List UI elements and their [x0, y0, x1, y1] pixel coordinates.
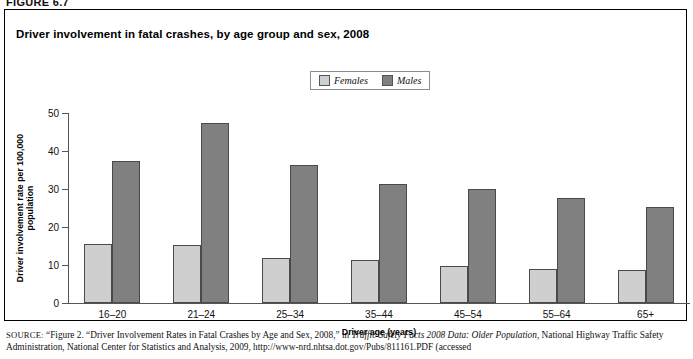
x-tick-label: 45–54 — [454, 309, 482, 320]
bar-males-35-44 — [379, 184, 407, 303]
bar-females-21-24 — [173, 245, 201, 303]
source-keyword: SOURCE: — [6, 330, 44, 340]
source-publication-title: Traffic Safety Facts 2008 Data: Older Po… — [351, 330, 536, 340]
legend-label-males: Males — [397, 75, 421, 86]
y-tick-label: 0 — [53, 298, 59, 309]
bar-males-16-20 — [112, 161, 140, 303]
chart-legend: Females Males — [310, 71, 430, 90]
legend-label-females: Females — [334, 75, 368, 86]
figure-label: FIGURE 6.7 — [6, 0, 69, 6]
bar-group — [512, 113, 601, 303]
plot-area: 01020304050 16–2021–2425–3435–4445–5455–… — [68, 113, 690, 303]
bar-females-45-54 — [440, 266, 468, 303]
chart-title: Driver involvement in fatal crashes, by … — [16, 28, 369, 40]
bar-males-25-34 — [290, 165, 318, 303]
bar-males-45-54 — [468, 189, 496, 303]
legend-item-females: Females — [319, 75, 368, 86]
bar-females-35-44 — [351, 260, 379, 303]
x-tick-label: 16–20 — [99, 309, 127, 320]
x-axis-line — [68, 303, 690, 304]
source-text-a: “Figure 2. “Driver Involvement Rates in … — [44, 330, 352, 340]
bar-females-55-64 — [529, 269, 557, 303]
x-tick-label: 55–64 — [543, 309, 571, 320]
legend-item-males: Males — [382, 75, 421, 86]
bar-group — [68, 113, 157, 303]
bar-group — [246, 113, 335, 303]
chart-frame: Driver involvement in fatal crashes, by … — [4, 9, 687, 321]
bar-group — [423, 113, 512, 303]
bar-females-16-20 — [84, 244, 112, 303]
x-tick-label: 35–44 — [365, 309, 393, 320]
source-text-b: , National — [537, 330, 574, 340]
bar-group — [157, 113, 246, 303]
bar-males-65+ — [646, 207, 674, 303]
y-axis-title: Driver involvement rate per 100,000 popu… — [15, 113, 27, 303]
x-tick-label: 25–34 — [276, 309, 304, 320]
bar-males-21-24 — [201, 123, 229, 303]
y-tick-label: 20 — [48, 222, 59, 233]
source-note: SOURCE: “Figure 2. “Driver Involvement R… — [6, 330, 689, 353]
legend-swatch-females — [319, 75, 330, 86]
bar-females-65+ — [618, 270, 646, 303]
x-tick-label: 65+ — [637, 309, 654, 320]
bar-group — [335, 113, 424, 303]
y-tick-label: 10 — [48, 260, 59, 271]
bar-groups — [68, 113, 690, 303]
bar-group — [601, 113, 690, 303]
legend-swatch-males — [382, 75, 393, 86]
bar-females-25-34 — [262, 258, 290, 303]
y-tick-mark — [62, 303, 68, 304]
x-tick-label: 21–24 — [187, 309, 215, 320]
y-tick-label: 50 — [48, 108, 59, 119]
y-tick-label: 30 — [48, 184, 59, 195]
bar-males-55-64 — [557, 198, 585, 303]
y-tick-label: 40 — [48, 146, 59, 157]
